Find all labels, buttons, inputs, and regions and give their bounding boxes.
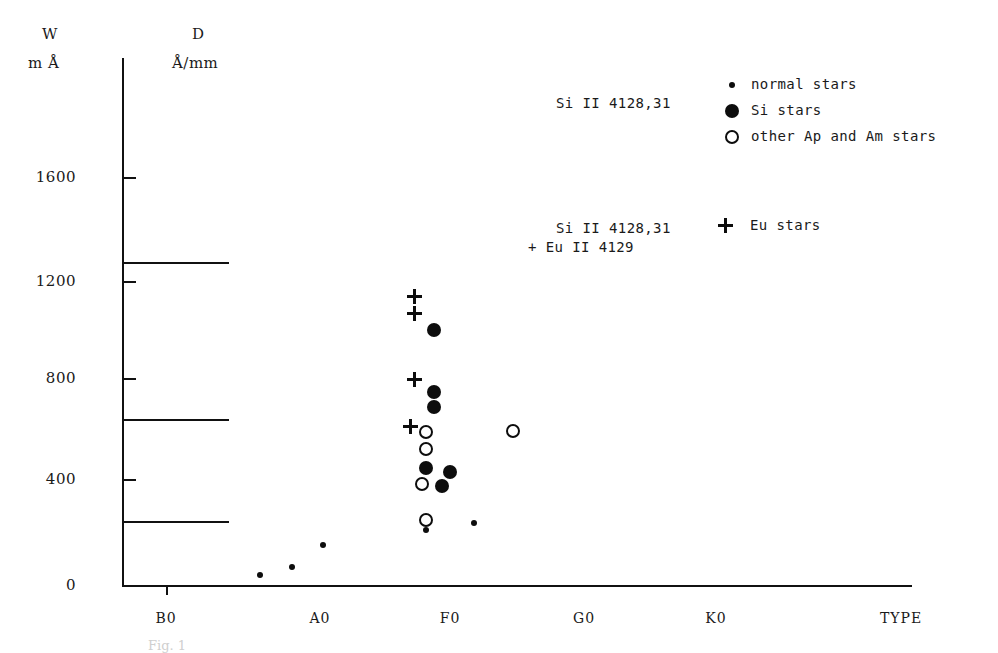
- data-point-normal-star: [471, 520, 477, 526]
- legend-block-eu-source-line2: + Eu II 4129: [528, 238, 634, 257]
- x-tick-label-b0: B0: [136, 611, 196, 625]
- legend-block-eu-source-line1: Si II 4128,31: [556, 219, 671, 238]
- d-scale-rule-2: [124, 419, 229, 421]
- x-tick-b0: [166, 586, 168, 595]
- legend-label-ap-am-stars: other Ap and Am stars: [751, 127, 936, 145]
- x-tick-label-k0: K0: [686, 611, 746, 625]
- y-tick-400: [124, 479, 136, 481]
- data-point-eu-star: [407, 306, 422, 321]
- large-filled-circle-icon: [725, 104, 739, 118]
- legend-label-normal-stars: normal stars: [751, 75, 857, 93]
- d-axis-title: D: [192, 26, 205, 43]
- data-point-eu-star: [407, 372, 422, 387]
- y-tick-800: [124, 378, 136, 380]
- y-axis-title-w: W: [42, 26, 58, 43]
- data-point-ap-am-star: [419, 425, 433, 439]
- data-point-si-star: [419, 461, 433, 475]
- d-scale-rule-1: [124, 262, 229, 264]
- y-axis-line: [122, 58, 124, 586]
- data-point-eu-star: [403, 419, 418, 434]
- data-point-si-star: [443, 465, 457, 479]
- data-point-normal-star: [320, 542, 326, 548]
- legend-label-eu-stars: Eu stars: [750, 216, 821, 234]
- data-point-eu-star: [407, 289, 422, 304]
- data-point-ap-am-star: [506, 424, 520, 438]
- data-point-si-star: [427, 400, 441, 414]
- data-point-normal-star: [289, 564, 295, 570]
- data-point-ap-am-star: [419, 442, 433, 456]
- data-point-ap-am-star: [415, 477, 429, 491]
- data-point-si-star: [427, 323, 441, 337]
- x-axis-label: TYPE: [866, 611, 936, 625]
- legend-label-si-stars: Si stars: [751, 101, 822, 119]
- y-tick-1200: [124, 281, 136, 283]
- x-tick-label-g0: G0: [554, 611, 614, 625]
- y-axis-title-units: m Å: [28, 55, 59, 72]
- data-point-si-star: [427, 385, 441, 399]
- y-tick-label-0: 0: [22, 578, 76, 593]
- legend-block-si-source: Si II 4128,31: [556, 94, 671, 113]
- x-axis-line: [122, 585, 912, 587]
- d-axis-title-units: Å/mm: [172, 55, 218, 72]
- figure-caption: Fig. 1: [148, 639, 186, 652]
- open-circle-icon: [725, 130, 739, 144]
- small-filled-circle-icon: [729, 82, 735, 88]
- y-tick-1600: [124, 177, 136, 179]
- x-tick-label-a0: A0: [290, 611, 350, 625]
- y-tick-label-800: 800: [22, 371, 76, 386]
- y-tick-label-1200: 1200: [22, 274, 76, 289]
- data-point-normal-star: [257, 572, 263, 578]
- x-tick-label-f0: F0: [420, 611, 480, 625]
- data-point-normal-star: [423, 527, 429, 533]
- d-scale-rule-3: [124, 521, 229, 523]
- data-point-si-star: [435, 479, 449, 493]
- plus-sign-icon: [718, 218, 733, 233]
- y-tick-label-1600: 1600: [22, 170, 76, 185]
- data-point-ap-am-star: [419, 513, 433, 527]
- y-tick-label-400: 400: [22, 472, 76, 487]
